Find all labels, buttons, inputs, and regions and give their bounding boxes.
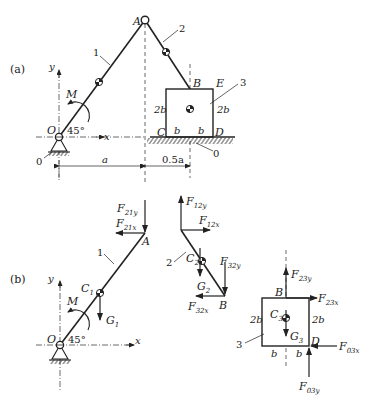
link-2-b-label: 2 — [166, 257, 172, 268]
angle-label: 45° — [67, 125, 85, 136]
f21x-label: F21x — [115, 217, 137, 232]
f32x-label: F32x — [187, 300, 209, 315]
g1-label: G1 — [106, 314, 119, 329]
y-axis-b-label: y — [47, 273, 54, 284]
dim-half-a-label: 0.5a — [162, 154, 184, 165]
leader-3-b — [245, 334, 264, 343]
y-axis-label: y — [48, 61, 55, 72]
ground-hatch — [147, 138, 233, 144]
moment-label: M — [65, 88, 78, 101]
leader-1 — [100, 56, 110, 65]
fbd-link-3: F23y F23x B C3 G3 2b 2b b b D 3 F03x F03… — [236, 250, 360, 395]
joint-a-icon — [141, 16, 149, 24]
link-3-b-label: 3 — [236, 339, 242, 350]
x-axis-label: x — [104, 131, 110, 142]
fbd-link-1: y x C1 G1 1 A F21y F21x — [36, 200, 150, 390]
dim-a-label: a — [102, 154, 108, 165]
f12y-label: F12y — [185, 195, 208, 210]
dim-2b-left-b: 2b — [249, 314, 263, 325]
dim-b-right-b: b — [296, 348, 302, 359]
point-e-label: E — [215, 77, 224, 90]
point-b-link3-label: B — [274, 286, 283, 299]
ground-label-1: 0 — [36, 156, 42, 167]
f03y-label: F03y — [298, 380, 321, 395]
f23y-label: F23y — [290, 268, 313, 283]
moment-b-label: M — [66, 295, 79, 308]
point-o-label: O — [47, 124, 56, 137]
ground-label-2: 0 — [213, 148, 219, 159]
dim-b-left: b — [174, 125, 180, 136]
f12x-label: F12x — [198, 214, 220, 229]
dim-b-right: b — [198, 125, 204, 136]
centroid-2-icon — [162, 48, 169, 55]
part-a-label: (a) — [10, 63, 25, 76]
angle-b-label: 45° — [68, 334, 86, 345]
link-3-label: 3 — [240, 77, 246, 88]
link-2-label: 2 — [179, 23, 185, 34]
x-axis-b-label: x — [135, 335, 141, 346]
leader-0b — [196, 143, 213, 151]
dim-2b-right-b: 2b — [311, 314, 325, 325]
leader-2-b — [174, 252, 186, 262]
link-1 — [59, 20, 145, 137]
part-b-label: (b) — [10, 273, 26, 286]
part-a: (a) y x A 1 2 — [10, 15, 246, 182]
point-a-b-label: A — [141, 235, 150, 248]
mechanism-diagram: (a) y x A 1 2 — [0, 0, 371, 402]
point-a-label: A — [132, 15, 141, 28]
f21y-label: F21y — [116, 202, 139, 217]
leader-1-b — [104, 254, 114, 264]
f32y-label: F32y — [219, 255, 242, 270]
g2-label: G2 — [197, 280, 211, 295]
dim-b-left-b: b — [271, 348, 277, 359]
c1-label: C1 — [81, 282, 94, 297]
part-b: (b) y x C1 G1 1 A F21y — [10, 195, 360, 395]
point-b-label: B — [192, 77, 201, 90]
centroid-1-icon — [95, 78, 102, 85]
f03x-label: F03x — [338, 340, 360, 355]
centroid-c1-icon — [96, 289, 103, 296]
leader-2 — [163, 30, 178, 42]
link-1-label: 1 — [93, 47, 99, 58]
link-1-b-label: 1 — [97, 247, 103, 258]
point-o-b-label: O — [47, 333, 56, 346]
point-b-link2-label: B — [218, 299, 227, 312]
dim-2b-right: 2b — [216, 104, 230, 115]
fbd-link-2: F12y F12x C2 G2 2 F32y F32x B — [166, 195, 242, 315]
moment-arrow-icon — [68, 102, 89, 122]
f23x-label: F23x — [317, 292, 339, 307]
centroid-3-icon — [186, 105, 193, 112]
dim-2b-left: 2b — [153, 104, 167, 115]
